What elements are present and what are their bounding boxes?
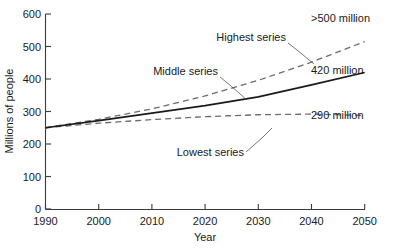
leader-line-lowest-series: [246, 128, 272, 152]
x-tick-label-2040: 2040: [299, 215, 323, 227]
x-tick-label-2030: 2030: [246, 215, 270, 227]
y-axis-title: Millions of people: [3, 69, 15, 154]
annotation-highest-series: Highest series: [216, 31, 286, 43]
y-axis-ticks: [46, 14, 52, 209]
y-tick-label-200: 200: [23, 138, 41, 150]
population-projection-chart: 600 500 400 300 200 100 0 1990 2000 2010…: [0, 0, 399, 249]
y-tick-label-100: 100: [23, 171, 41, 183]
leader-line-highest-series: [288, 43, 314, 64]
x-axis-ticks: [46, 204, 365, 210]
annotation-value-highest: >500 million: [311, 12, 370, 24]
y-tick-label-600: 600: [23, 8, 41, 20]
annotation-lowest-series: Lowest series: [177, 146, 245, 158]
annotation-value-lowest: 290 million: [311, 109, 364, 121]
y-tick-label-500: 500: [23, 41, 41, 53]
y-tick-label-300: 300: [23, 106, 41, 118]
leader-line-middle-series: [220, 77, 247, 100]
x-tick-label-2020: 2020: [193, 215, 217, 227]
x-tick-label-1990: 1990: [33, 215, 57, 227]
x-tick-label-2010: 2010: [140, 215, 164, 227]
chart-canvas: 600 500 400 300 200 100 0 1990 2000 2010…: [0, 0, 399, 249]
annotation-middle-series: Middle series: [153, 65, 218, 77]
annotation-value-middle: 420 million: [311, 64, 364, 76]
x-tick-label-2000: 2000: [86, 215, 110, 227]
x-tick-label-2050: 2050: [352, 215, 376, 227]
y-tick-label-0: 0: [35, 203, 41, 215]
x-axis-title: Year: [194, 231, 217, 243]
y-tick-label-400: 400: [23, 73, 41, 85]
